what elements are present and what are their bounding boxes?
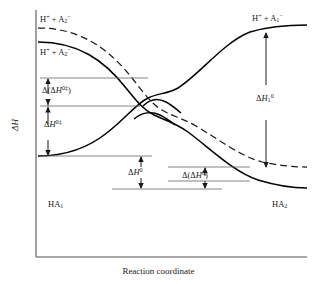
bracket-delta-h-activation bbox=[40, 107, 152, 157]
label-delta-h-activation: ΔH0‡ bbox=[44, 119, 62, 128]
x-axis-label: Reaction coordinate bbox=[0, 266, 317, 276]
curve-ascending-solid bbox=[38, 25, 307, 156]
label-delta-delta-h-activation: Δ(ΔH0‡) bbox=[42, 85, 71, 94]
plot-canvas bbox=[0, 0, 317, 285]
reaction-coordinate-diagram: H+ + A2− H+ + A2− H+ + A1− Δ(ΔH0‡) ΔH0‡ … bbox=[0, 0, 317, 285]
y-axis-label: ΔH bbox=[10, 105, 20, 145]
label-top-right-state: H+ + A1− bbox=[252, 13, 283, 23]
label-top-left-dashed-state: H+ + A2− bbox=[40, 14, 71, 24]
label-bottom-right-reactant: HA2 bbox=[272, 200, 287, 210]
label-delta-h-1: ΔH10 bbox=[256, 93, 274, 103]
label-bottom-left-reactant: HA1 bbox=[48, 200, 63, 210]
label-delta-h-reaction: ΔH0 bbox=[128, 167, 143, 176]
label-delta-delta-h-reaction: Δ(ΔH0) bbox=[182, 170, 208, 179]
label-top-left-solid-state: H+ + A2− bbox=[40, 47, 71, 57]
